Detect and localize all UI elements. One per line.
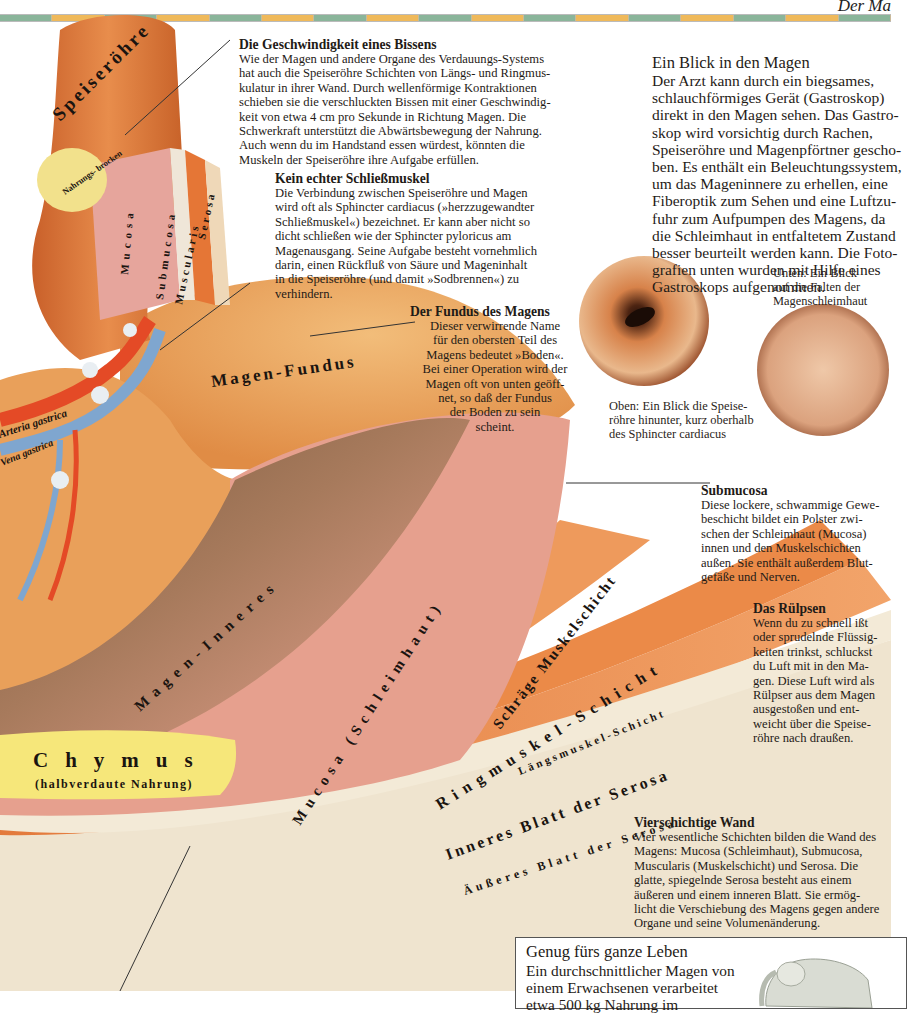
body-ruelpsen: Wenn du zu schnell ißt oder sprudelnde F…	[753, 616, 898, 746]
info-box-lebensmenge: Genug fürs ganze Leben Ein durchschnittl…	[515, 937, 907, 1009]
caption-oben: Oben: Ein Blick die Speise- röhre hinunt…	[609, 399, 754, 441]
label-chymus-sub: (halbverdaute Nahrung)	[35, 777, 193, 791]
caption-unten: Unten: Ein Blick auf die Falten der Mage…	[773, 266, 867, 308]
heading-geschwindigkeit: Die Geschwindigkeit eines Bissens	[239, 37, 594, 52]
heading-wand: Vierschichtige Wand	[634, 815, 904, 830]
text-geschwindigkeit: Die Geschwindigkeit eines Bissens Wie de…	[239, 37, 594, 167]
heading-ruelpsen: Das Rülpsen	[753, 601, 898, 616]
body-geschwindigkeit: Wie der Magen und andere Organe des Verd…	[239, 52, 594, 167]
text-schliessmuskel: Kein echter Schließmuskel Die Verbindung…	[275, 171, 595, 301]
text-ruelpsen: Das Rülpsen Wenn du zu schnell ißt oder …	[753, 601, 898, 746]
text-blick: Ein Blick in den Magen Der Arzt kann dur…	[652, 54, 902, 296]
text-fundus: Der Fundus des Magens Dieser verwirrende…	[410, 304, 580, 434]
heading-submucosa: Submucosa	[701, 483, 901, 498]
body-submucosa: Diese lockere, schwammige Gewe- beschich…	[701, 498, 901, 584]
body-fundus: Dieser verwirrende Name für den obersten…	[410, 319, 580, 434]
text-wand: Vierschichtige Wand Vier wesentliche Sch…	[634, 815, 904, 931]
heading-blick: Ein Blick in den Magen	[652, 54, 902, 72]
body-wand: Vier wesentliche Schichten bilden die Wa…	[634, 830, 904, 931]
body-blick: Der Arzt kann durch ein biegsames, schla…	[652, 72, 902, 296]
body-schliessmuskel: Die Verbindung zwischen Speiseröhre und …	[275, 186, 595, 301]
text-submucosa: Submucosa Diese lockere, schwammige Gewe…	[701, 483, 901, 584]
info-box-title: Genug fürs ganze Leben	[526, 942, 688, 962]
label-chymus: Chymus	[33, 748, 210, 772]
heading-schliessmuskel: Kein echter Schließmuskel	[275, 171, 595, 186]
photo-stomach-folds	[757, 304, 889, 436]
info-box-body: Ein durchschnittlicher Magen von einem E…	[526, 962, 736, 1013]
elephant-icon	[746, 946, 876, 1008]
heading-fundus: Der Fundus des Magens	[410, 304, 580, 319]
